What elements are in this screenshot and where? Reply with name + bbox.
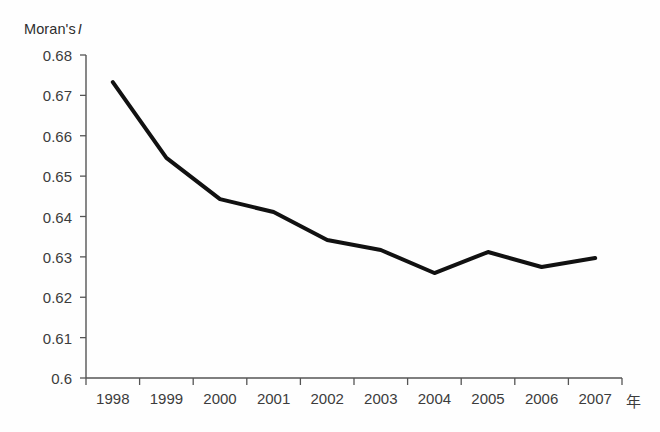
series-group [113, 82, 595, 273]
moran-i-line-chart: Moran'sI 0.60.610.620.630.640.650.660.67… [0, 0, 660, 432]
plot-area [0, 0, 660, 432]
axes-group [80, 55, 622, 385]
data-line-moran-i [113, 82, 595, 273]
